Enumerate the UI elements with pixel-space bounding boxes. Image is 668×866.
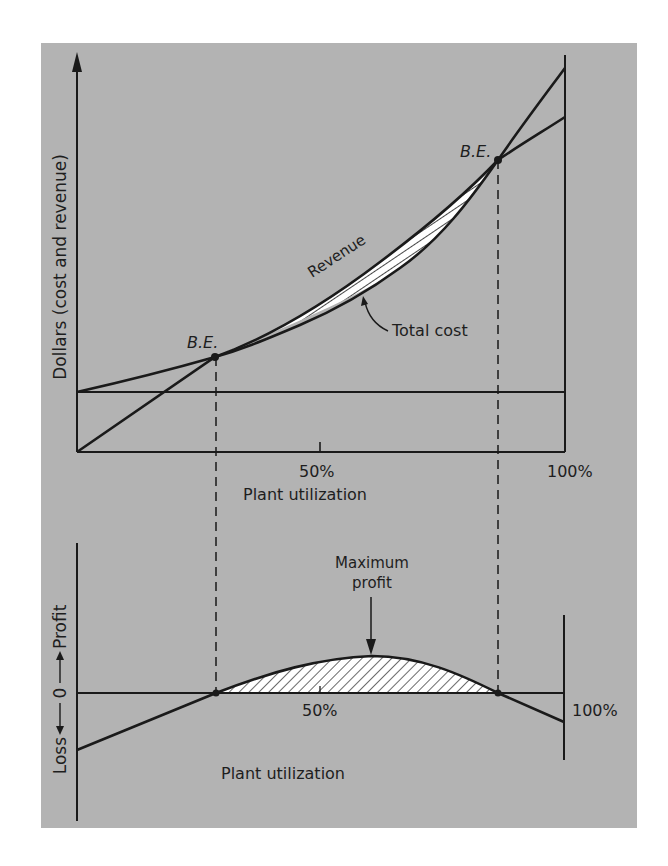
bottom-tick-100-label: 100% [572,701,618,720]
top-tick-100-label: 100% [547,462,593,481]
max-profit-label-line1: Maximum [335,554,409,572]
y-axis-label: Dollars (cost and revenue) [50,154,70,380]
bottom-be-point-right [495,690,502,697]
total-cost-label: Total cost [391,321,468,340]
bottom-y-axis-label: 0 Profit Loss [50,604,70,774]
top-tick-50-label: 50% [299,462,335,481]
be-left-label: B.E. [187,333,218,352]
figure-panel [41,43,637,828]
y-label-profit: Profit [50,604,70,649]
top-x-axis-label: Plant utilization [243,485,367,504]
max-profit-label-line2: profit [352,574,392,592]
y-label-zero: 0 [50,688,70,699]
bottom-x-axis-label: Plant utilization [221,764,345,783]
y-label-loss: Loss [50,737,70,774]
be-right-label: B.E. [460,142,491,161]
break-even-point-left [211,353,219,361]
bottom-tick-50-label: 50% [302,701,338,720]
break-even-figure: Dollars (cost and revenue) Revenue Total… [0,0,668,866]
bottom-be-point-left [213,690,220,697]
